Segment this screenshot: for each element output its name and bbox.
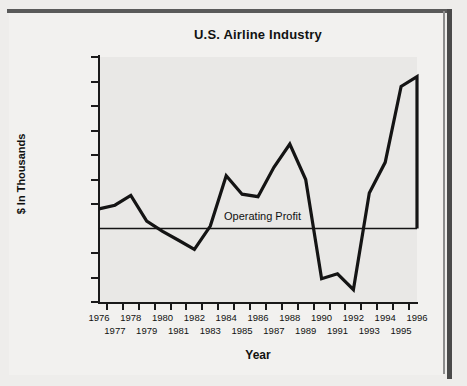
series-annotation-label: Operating Profit [224,210,301,222]
operating-profit-line [99,77,417,290]
series-canvas [0,0,467,386]
scanned-page: U.S. Airline Industry $ In Thousands Yea… [0,0,467,386]
